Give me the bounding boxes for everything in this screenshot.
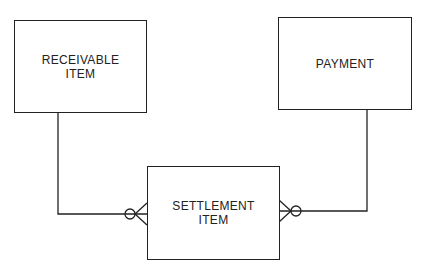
- crows-foot-icon: [135, 203, 147, 214]
- entity-label: SETTLEMENT ITEM: [172, 199, 254, 227]
- crows-foot-icon: [279, 200, 291, 211]
- entity-receivable-item: RECEIVABLE ITEM: [14, 20, 147, 113]
- relationship-receivable-settlement: [58, 112, 147, 225]
- entity-label: PAYMENT: [316, 57, 374, 71]
- entity-payment: PAYMENT: [278, 17, 412, 110]
- relationship-payment-settlement: [279, 110, 367, 222]
- entity-label: RECEIVABLE ITEM: [42, 53, 119, 81]
- entity-settlement-item: SETTLEMENT ITEM: [147, 166, 280, 260]
